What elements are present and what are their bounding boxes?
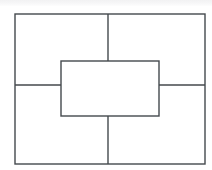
diagram-canvas <box>0 0 212 170</box>
center-rectangle <box>61 61 159 116</box>
partitioned-rectangle-diagram <box>0 0 212 170</box>
